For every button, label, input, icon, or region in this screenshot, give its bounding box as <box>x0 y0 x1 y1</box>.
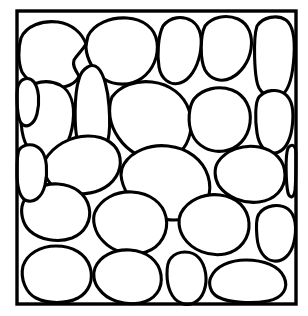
grain-cell: bottom-center-right oval grain <box>167 252 206 304</box>
grain-structure-figure: top-left large graintop-center-left grai… <box>0 0 308 316</box>
grain-structure-canvas: top-left large graintop-center-left grai… <box>0 0 308 316</box>
grain-cell: right mid-lower grain <box>215 146 285 202</box>
grain-cell: bottom-center grain <box>94 250 161 304</box>
grain-cell: tall narrow wedge grain <box>75 66 110 145</box>
grain-cell: bottom-right wide grain <box>210 260 286 303</box>
grain-cell: left edge mid-small grain <box>17 145 47 201</box>
grain-cell: right mid elongated grain <box>256 90 293 153</box>
grain-cell: right edge elongated grain <box>255 17 295 97</box>
grain-cell: upper-left corner sliver grain <box>17 79 39 126</box>
grain-cell: right-lower round grain <box>179 195 249 255</box>
grain-cell: bottom-left grain <box>22 246 91 303</box>
grain-cell: center-lower round grain <box>94 192 167 254</box>
grain-cell-layer: top-left large graintop-center-left grai… <box>17 17 296 305</box>
grain-cell: right edge lower grain <box>256 206 295 262</box>
grain-cell: center-right round grain <box>189 88 250 151</box>
